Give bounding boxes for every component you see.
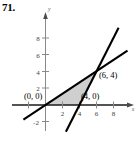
x-axis-name-label: x	[131, 106, 135, 112]
x-tick-label-6: 6	[95, 110, 99, 118]
y-tick-label-4: 4	[36, 69, 40, 77]
y-axis-name-label: y	[47, 6, 51, 12]
y-tick-label-minus-2: -2	[33, 119, 39, 127]
point-label-4-0: (4, 0)	[81, 91, 100, 101]
coordinate-plane-graph: 8 6 4 2 -2 y 2 4 6 8 x (0, 0) (4,	[0, 0, 137, 142]
x-tick-label-2: 2	[61, 110, 65, 118]
point-label-origin: (0, 0)	[24, 91, 43, 101]
y-axis	[42, 12, 49, 131]
y-tick-label-6: 6	[36, 52, 40, 60]
x-tick-label-4: 4	[78, 110, 82, 118]
point-label-6-4: (6, 4)	[99, 70, 118, 80]
x-tick-label-8: 8	[112, 110, 116, 118]
y-tick-label-8: 8	[36, 35, 40, 43]
textbook-figure: 71. 8 6 4 2 -2 y	[0, 0, 137, 142]
